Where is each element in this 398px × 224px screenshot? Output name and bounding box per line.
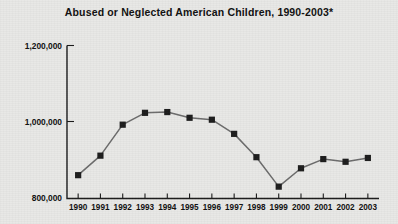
y-tick-label-800000: 800,000 <box>32 193 63 203</box>
x-tick-label-2003: 2003 <box>359 203 378 212</box>
data-point-2002 <box>342 159 348 165</box>
x-tick-label-1993: 1993 <box>136 203 155 212</box>
chart-axes <box>67 46 379 199</box>
data-point-1998 <box>253 154 259 160</box>
data-point-1990 <box>75 172 81 178</box>
x-tick-label-1994: 1994 <box>158 203 177 212</box>
x-tick-label-1992: 1992 <box>114 203 133 212</box>
x-tick-label-2000: 2000 <box>292 203 311 212</box>
x-tick-label-1995: 1995 <box>180 203 199 212</box>
x-tick-label-1990: 1990 <box>69 203 88 212</box>
x-axis-ticks <box>78 194 368 199</box>
x-axis-labels: 1990199119921993199419951996199719981999… <box>69 203 377 212</box>
series-markers <box>75 109 371 190</box>
data-point-1993 <box>142 110 148 116</box>
x-tick-label-1998: 1998 <box>247 203 266 212</box>
data-point-1994 <box>164 109 170 115</box>
x-tick-label-2001: 2001 <box>314 203 333 212</box>
data-point-1996 <box>209 117 215 123</box>
data-point-2003 <box>365 155 371 161</box>
data-point-1992 <box>120 122 126 128</box>
y-tick-label-1200000: 1,200,000 <box>25 41 63 51</box>
data-point-2001 <box>320 156 326 162</box>
data-point-1991 <box>97 153 103 159</box>
data-point-1995 <box>186 115 192 121</box>
x-tick-label-1997: 1997 <box>225 203 244 212</box>
chart-figure: Abused or Neglected American Children, 1… <box>0 0 398 224</box>
x-tick-label-1999: 1999 <box>270 203 289 212</box>
line-chart-plot: 1,200,000 1,000,000 800,000 199019911992… <box>0 0 398 224</box>
data-point-1997 <box>231 131 237 137</box>
x-tick-label-2002: 2002 <box>336 203 355 212</box>
x-tick-label-1991: 1991 <box>91 203 110 212</box>
x-tick-label-1996: 1996 <box>203 203 222 212</box>
y-tick-label-1000000: 1,000,000 <box>25 117 63 127</box>
data-point-2000 <box>298 165 304 171</box>
data-point-1999 <box>276 184 282 190</box>
